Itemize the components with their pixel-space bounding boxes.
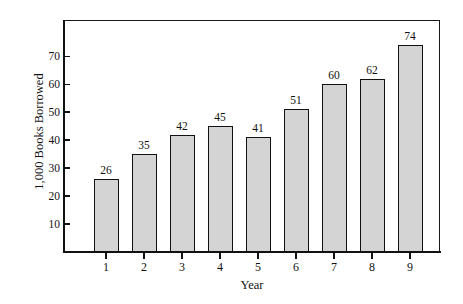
bars-plot-area: 263542454151606274 [65, 20, 440, 252]
x-axis-tick-label: 1 [87, 260, 125, 274]
x-axis-tick-label: 8 [353, 260, 391, 274]
bar-slot: 41 [239, 20, 277, 252]
x-axis-tick-label: 2 [125, 260, 163, 274]
bar[interactable] [94, 179, 119, 252]
x-axis-tick-label: 6 [277, 260, 315, 274]
bar-value-label: 60 [315, 69, 353, 82]
bar-slot: 74 [391, 20, 429, 252]
x-axis-tick-label: 4 [201, 260, 239, 274]
x-axis-tick [219, 253, 221, 259]
x-axis-tick [295, 253, 297, 259]
bar[interactable] [246, 137, 271, 252]
x-axis-tick [409, 253, 411, 259]
bar-value-label: 45 [201, 111, 239, 124]
bar-slot: 26 [87, 20, 125, 252]
bar-value-label: 42 [163, 120, 201, 133]
bar-slot: 42 [163, 20, 201, 252]
bar-slot: 35 [125, 20, 163, 252]
bar-value-label: 62 [353, 64, 391, 77]
bar[interactable] [132, 154, 157, 252]
x-axis-title: Year [63, 278, 441, 293]
bar-slot: 45 [201, 20, 239, 252]
bar-value-label: 41 [239, 122, 277, 135]
bar[interactable] [398, 45, 423, 252]
x-axis-tick [257, 253, 259, 259]
x-axis-tick-label: 3 [163, 260, 201, 274]
bar-chart-screenshot: 10203040506070 1,000 Books Borrowed 2635… [0, 0, 463, 304]
y-axis-title-container: 1,000 Books Borrowed [16, 20, 40, 252]
bar-slot: 60 [315, 20, 353, 252]
bar-slot: 51 [277, 20, 315, 252]
x-axis-tick-label: 7 [315, 260, 353, 274]
bar[interactable] [284, 109, 309, 252]
bar-value-label: 26 [87, 164, 125, 177]
x-axis-tick [181, 253, 183, 259]
bar-value-label: 74 [391, 30, 429, 43]
y-axis-title: 1,000 Books Borrowed [32, 47, 47, 217]
bar-value-label: 35 [125, 139, 163, 152]
bar[interactable] [360, 79, 385, 252]
bar-slot: 62 [353, 20, 391, 252]
x-axis-tick [371, 253, 373, 259]
x-axis-tick [105, 253, 107, 259]
bar[interactable] [170, 135, 195, 252]
x-axis-tick [333, 253, 335, 259]
x-axis-tick-label: 5 [239, 260, 277, 274]
bar[interactable] [322, 84, 347, 252]
bar-value-label: 51 [277, 94, 315, 107]
bar[interactable] [208, 126, 233, 252]
x-axis-tick [143, 253, 145, 259]
x-axis-tick-label: 9 [391, 260, 429, 274]
